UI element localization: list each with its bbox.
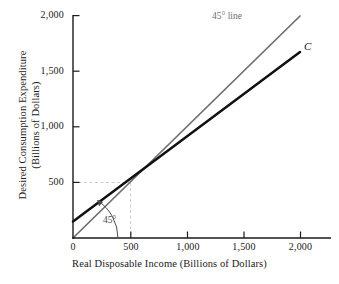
y-axis-title-line2: (Billions of Dollars) — [29, 17, 42, 233]
line-45-degree — [73, 16, 300, 238]
x-axis-ticks — [131, 232, 301, 239]
y-axis-title-line1: Desired Consumption Expenditure — [16, 17, 29, 233]
line-consumption-function — [73, 52, 300, 221]
label-consumption-function: C — [304, 40, 311, 52]
x-tick-label-1500: 1,500 — [222, 241, 266, 252]
x-axis-title: Real Disposable Income (Billions of Doll… — [0, 258, 339, 269]
y-axis-ticks — [73, 16, 80, 183]
y-axis-title: Desired Consumption Expenditure (Billion… — [16, 17, 42, 233]
x-tick-label-0: 0 — [63, 241, 83, 252]
chart-figure: 2,000 1,500 1,000 500 0 500 1,000 1,500 … — [0, 0, 339, 284]
label-angle-45: 45° — [103, 215, 116, 225]
x-tick-label-500: 500 — [111, 241, 151, 252]
label-45-degree-line: 45° line — [212, 11, 242, 21]
x-tick-label-1000: 1,000 — [166, 241, 210, 252]
x-tick-label-2000: 2,000 — [279, 241, 323, 252]
